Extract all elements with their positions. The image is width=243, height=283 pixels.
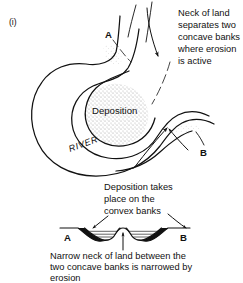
convex-bank-arrow-right [168,214,186,228]
cross-section-group: A B [60,214,190,250]
neck-callout-line-5: is active [178,56,212,66]
narrow-neck-caption-line-3: erosion [50,273,81,283]
convex-bank-arrow-left [93,216,108,228]
flow-direction-arrow [147,8,158,56]
plan-label-b: B [200,147,207,158]
deposition-label: Deposition [92,105,137,116]
narrow-neck-caption-line-2: two concave banks is narrowed by [50,262,192,272]
neck-callout-text-block: Neck of land separates two concave banks… [177,8,240,66]
narrow-neck-caption-line-1: Narrow neck of land between the [50,251,186,261]
narrow-neck-caption-block: Narrow neck of land between the two conc… [50,251,192,283]
neck-callout-line-4: where erosion [177,44,236,54]
deposition-caption-line-3: convex banks [104,206,161,216]
neck-callout-line-2: separates two [178,20,236,30]
river-label: RIVER [67,134,99,154]
cross-section-label-b: B [180,232,187,243]
cross-section-label-a: A [64,232,71,243]
deposition-caption-line-2: place on the [104,194,155,204]
neck-callout-line-1: Neck of land [178,8,230,18]
deposition-caption-line-1: Deposition takes [104,182,173,192]
neck-callout-leader [152,62,170,104]
deposition-caption-block: Deposition takes place on the convex ban… [104,182,173,216]
figure-container: (i) [0,0,243,283]
upstream-channel-left-line [128,5,136,37]
label-b-leader [196,132,204,145]
neck-callout-line-3: concave banks [178,32,240,42]
figure-number-label: (i) [9,17,17,27]
plan-label-a: A [105,29,112,40]
ground-surface-profile [60,228,190,241]
river-meander-diagram: (i) [0,0,243,283]
